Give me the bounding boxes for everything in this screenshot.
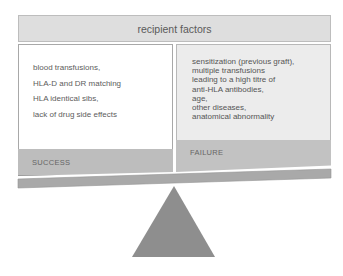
success-factor-item: blood transfusions, xyxy=(33,60,121,76)
failure-factor-item: other diseases, xyxy=(192,103,294,112)
failure-label: FAILURE xyxy=(190,148,223,157)
success-factor-item: HLA-D and DR matching xyxy=(33,76,121,92)
fulcrum-triangle xyxy=(132,186,215,257)
success-factor-item: lack of drug side effects xyxy=(33,107,121,123)
failure-factor-item: multiple transfusions xyxy=(192,66,294,75)
success-factor-item: HLA identical sibs, xyxy=(33,91,121,107)
failure-factor-item: anti-HLA antibodies, xyxy=(192,85,294,94)
failure-factor-item: anatomical abnormality xyxy=(192,112,294,121)
success-factors-panel: blood transfusions, HLA-D and DR matchin… xyxy=(18,44,173,150)
success-band: SUCCESS xyxy=(18,149,173,176)
recipient-factors-header: recipient factors xyxy=(18,15,331,42)
failure-factors-panel: sensitization (previous graft), multiple… xyxy=(176,44,331,141)
header-title: recipient factors xyxy=(137,23,211,35)
failure-factor-item: age, xyxy=(192,94,294,103)
success-label: SUCCESS xyxy=(32,158,70,167)
failure-factors-list: sensitization (previous graft), multiple… xyxy=(192,57,294,121)
failure-factor-item: leading to a high titre of xyxy=(192,75,294,84)
failure-factor-item: sensitization (previous graft), xyxy=(192,57,294,66)
success-factors-list: blood transfusions, HLA-D and DR matchin… xyxy=(33,60,121,122)
